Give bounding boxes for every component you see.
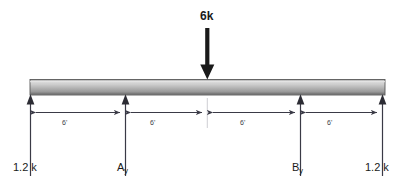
reaction-label-right-end-text: 1.2 k bbox=[365, 161, 389, 173]
dimension-label-4: 6' bbox=[327, 119, 332, 126]
dimension-label-2: 6' bbox=[150, 119, 155, 126]
reaction-label-support-b: By bbox=[292, 161, 303, 175]
applied-load-arrow-6k bbox=[200, 28, 214, 80]
beam-diagram-canvas: 6k 6' 6' 6' 6' 1.2 k Ay By 1.2 k bbox=[0, 0, 414, 190]
reaction-label-support-b-subscript: y bbox=[299, 166, 303, 175]
beam-diagram-graphics bbox=[0, 0, 414, 190]
applied-load-label: 6k bbox=[200, 9, 214, 23]
dimension-label-3: 6' bbox=[240, 119, 245, 126]
dimension-label-1: 6' bbox=[62, 119, 67, 126]
reaction-label-support-a-subscript: y bbox=[124, 166, 128, 175]
reaction-label-left-end-text: 1.2 k bbox=[13, 161, 37, 173]
reaction-label-right-end: 1.2 k bbox=[365, 161, 389, 173]
beam-member bbox=[30, 80, 385, 96]
reaction-label-left-end: 1.2 k bbox=[13, 161, 37, 173]
reaction-label-support-a: Ay bbox=[117, 161, 128, 175]
